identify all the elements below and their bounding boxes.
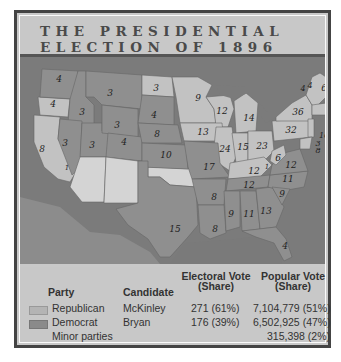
state-label-maine: 6 (321, 83, 325, 93)
state-label-south-dakota: 4 (151, 110, 157, 120)
state-label-nebraska: 8 (154, 129, 160, 139)
state-label-colorado: 4 (121, 137, 127, 147)
state-label-illinois: 24 (219, 144, 230, 154)
row-minor-party: Minor parties (52, 330, 113, 342)
swatch-republican (29, 306, 48, 315)
state-label-michigan: 14 (243, 113, 254, 123)
state-label-wisconsin: 12 (216, 106, 227, 116)
state-label-montana: 3 (107, 88, 113, 98)
state-label-idaho: 3 (79, 107, 85, 117)
header-electoral-line2: (Share) (176, 281, 256, 291)
state-label-arkansas: 8 (211, 192, 217, 202)
state-label-pennsylvania: 32 (285, 125, 296, 135)
state-label-new-hampshire: 4 (307, 81, 312, 90)
state-label-north-carolina: 11 (282, 174, 293, 184)
results-table: Party Candidate Electoral Vote (Share) P… (20, 267, 325, 342)
state-label-vermont: 4 (300, 84, 305, 93)
state-label-minnesota: 9 (195, 93, 201, 103)
us-election-map: 4 4 8 1 3 3 3 3 3 4 3 4 8 10 9 12 14 13 … (20, 57, 325, 264)
state-label-maryland: 8 (315, 146, 320, 155)
state-label-alabama: 11 (243, 209, 254, 219)
header-popular-line2: (Share) (253, 281, 333, 291)
header-party: Party (48, 287, 74, 297)
row-democrat-popular: 6,502,925 (47%) (253, 316, 331, 328)
state-label-florida: 4 (282, 241, 288, 251)
state-label-ohio: 23 (256, 141, 267, 151)
state-label-california-split: 1 (65, 164, 69, 172)
state-label-texas: 15 (169, 224, 180, 234)
state-label-mississippi: 9 (228, 209, 234, 219)
row-republican-candidate: McKinley (123, 302, 166, 314)
row-democrat-party: Democrat (52, 316, 98, 328)
state-label-iowa: 13 (197, 127, 208, 137)
state-label-louisiana: 8 (212, 224, 218, 234)
state-label-washington: 4 (56, 74, 62, 84)
state-label-south-carolina: 9 (279, 189, 285, 199)
row-republican-popular: 7,104,779 (51%) (253, 302, 331, 314)
state-label-wyoming: 3 (114, 120, 120, 130)
state-label-georgia: 13 (260, 206, 271, 216)
state-label-north-dakota: 3 (153, 83, 159, 93)
state-label-kentucky: 12 (248, 166, 259, 176)
title-banner: THE PRESIDENTIAL ELECTION OF 1896 (20, 16, 325, 57)
header-candidate: Candidate (123, 287, 174, 297)
row-republican-party: Republican (52, 302, 105, 314)
state-label-west-virginia: 6 (275, 153, 281, 163)
state-label-oregon: 4 (50, 99, 56, 109)
state-label-utah: 3 (89, 140, 95, 150)
state-label-indiana: 15 (237, 142, 248, 152)
row-democrat-electoral: 176 (39%) (191, 316, 239, 328)
row-republican-electoral: 271 (61%) (191, 302, 239, 314)
map-frame: THE PRESIDENTIAL ELECTION OF 1896 (14, 10, 331, 348)
state-label-kansas: 10 (160, 150, 171, 160)
row-minor-popular: 315,398 (2%) (267, 330, 330, 342)
state-label-california: 8 (39, 144, 45, 154)
title-line-1: THE PRESIDENTIAL (40, 23, 284, 39)
state-label-nevada: 3 (62, 138, 68, 148)
swatch-democrat (29, 320, 48, 329)
state-label-missouri: 17 (203, 162, 214, 172)
state-label-tennessee: 12 (243, 180, 254, 190)
header-electoral-vote: Electoral Vote (Share) (176, 271, 256, 291)
header-popular-vote: Popular Vote (Share) (253, 271, 333, 291)
state-label-virginia: 12 (285, 160, 296, 170)
title-line-2: ELECTION OF 1896 (40, 39, 278, 55)
state-label-new-york: 36 (292, 107, 303, 117)
state-label-kentucky-split: 1 (265, 163, 269, 171)
row-democrat-candidate: Bryan (123, 316, 150, 328)
